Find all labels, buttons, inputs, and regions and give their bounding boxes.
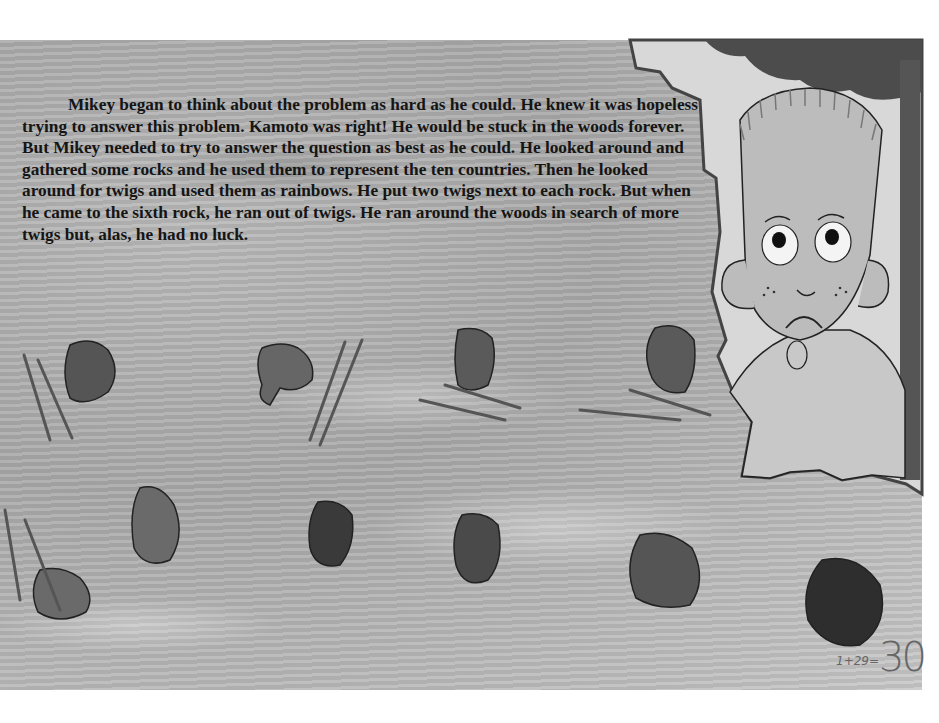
twig-icon [420, 400, 505, 420]
twig-icon [5, 510, 20, 600]
rock-icon [258, 344, 313, 405]
rock-icon [647, 326, 695, 393]
rock-icon [806, 558, 883, 645]
rock-icon [455, 329, 494, 390]
story-text: Mikey began to think about the problem a… [22, 94, 702, 245]
rock-icon [132, 487, 179, 563]
page-number-value: 30 [879, 634, 924, 680]
rock-icon [65, 341, 115, 402]
rock-icon [630, 533, 700, 607]
twig-icon [580, 410, 680, 420]
twig-icon [24, 355, 50, 440]
left-eye-icon [772, 232, 786, 248]
twig-icon [630, 390, 710, 415]
rock-icon [309, 501, 353, 566]
page-number: 1+29=30 [836, 634, 924, 680]
rock-icon [454, 514, 500, 583]
page-equation: 1+29= [836, 654, 879, 668]
right-eye-icon [825, 229, 839, 245]
rock-icon [33, 569, 89, 619]
